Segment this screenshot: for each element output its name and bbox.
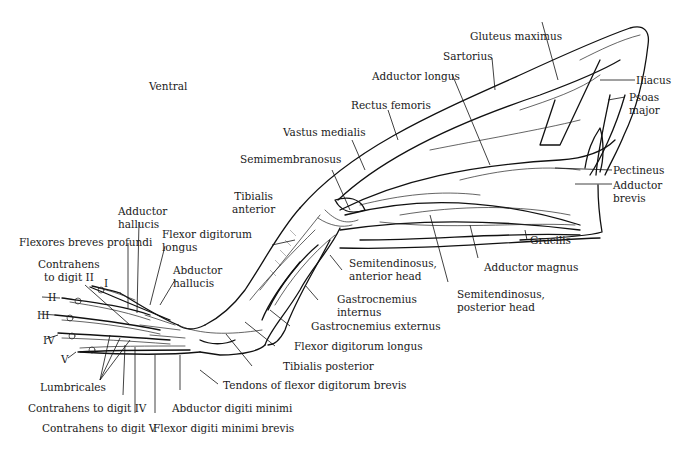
- label-gracilis: Gracilis: [530, 234, 571, 247]
- label-rectus-femoris: Rectus femoris: [351, 99, 431, 112]
- foot-outline: [55, 286, 200, 354]
- digit-label-ii: II: [48, 291, 56, 304]
- anatomy-figure: Ventral Gluteus maximus Sartorius Adduct…: [0, 0, 681, 452]
- label-adductor-hallucis: Adductor hallucis: [118, 205, 167, 231]
- label-gastrocnemius-internus: Gastrocnemius internus: [337, 293, 417, 319]
- label-adductor-longus: Adductor longus: [372, 70, 460, 83]
- label-sartorius: Sartorius: [443, 50, 493, 63]
- digit-label-iii: III: [37, 309, 49, 322]
- label-semitendinosus-anterior: Semitendinosus, anterior head: [349, 257, 437, 283]
- digit-label-v: V: [61, 353, 69, 366]
- label-semimembranosus: Semimembranosus: [240, 153, 341, 166]
- label-pectineus: Pectineus: [613, 164, 664, 177]
- label-tibialis-posterior: Tibialis posterior: [283, 360, 374, 373]
- label-iliacus: Iliacus: [636, 74, 671, 87]
- label-adductor-magnus: Adductor magnus: [484, 261, 578, 274]
- orientation-label: Ventral: [149, 80, 187, 93]
- label-lumbricales: Lumbricales: [40, 381, 106, 394]
- label-flexor-digitorum-longus-upper: Flexor digitorum longus: [162, 228, 252, 254]
- label-contrahens-digit-iv: Contrahens to digit IV: [28, 402, 146, 415]
- digit-label-i: I: [104, 277, 108, 290]
- label-psoas-major: Psoas major: [629, 91, 660, 117]
- label-semitendinosus-posterior: Semitendinosus, posterior head: [457, 288, 545, 314]
- digit-label-iv: IV: [43, 334, 55, 347]
- label-vastus-medialis: Vastus medialis: [283, 126, 366, 139]
- label-contrahens-digit-v: Contrahens to digit V: [42, 422, 156, 435]
- label-gastrocnemius-externus: Gastrocnemius externus: [311, 320, 441, 333]
- label-tendons-flexor-digitorum-brevis: Tendons of flexor digitorum brevis: [223, 379, 406, 392]
- label-abductor-digiti-minimi: Abductor digiti minimi: [172, 402, 292, 415]
- label-flexor-digiti-minimi-brevis: Flexor digiti minimi brevis: [153, 422, 294, 435]
- label-abductor-hallucis: Abductor hallucis: [173, 264, 222, 290]
- knee-outline: [318, 198, 365, 226]
- ankle-outline: [178, 325, 265, 355]
- label-flexor-digitorum-longus-lower: Flexor digitorum longus: [294, 340, 423, 353]
- label-adductor-brevis: Adductor brevis: [613, 179, 662, 205]
- label-contrahens-digit-ii: Contrahens to digit II: [38, 258, 100, 284]
- label-tibialis-anterior: Tibialis anterior: [232, 190, 275, 216]
- label-flexores-breves-profundi: Flexores breves profundi: [19, 236, 152, 249]
- label-gluteus-maximus: Gluteus maximus: [470, 30, 562, 43]
